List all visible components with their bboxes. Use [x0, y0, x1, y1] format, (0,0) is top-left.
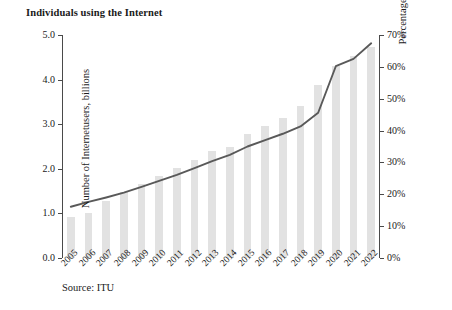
left-tick-label: 5.0	[43, 30, 56, 40]
left-tick-label: 0.0	[43, 253, 56, 263]
right-tick-label: 70%	[387, 30, 405, 40]
left-tick-label: 2.0	[43, 164, 56, 174]
chart-title: Individuals using the Internet	[26, 7, 162, 18]
plot-area: 0.01.02.03.04.05.0 0%10%20%30%40%50%60%7…	[62, 35, 380, 258]
right-tick-label: 20%	[387, 189, 405, 199]
right-axis-title: Percentage of population	[397, 0, 408, 97]
right-tick-label: 30%	[387, 157, 405, 167]
left-tick-label: 3.0	[43, 119, 56, 129]
chart-figure: Individuals using the Internet 0.01.02.0…	[0, 0, 452, 310]
right-tick	[380, 131, 384, 132]
right-tick	[380, 162, 384, 163]
right-tick	[380, 35, 384, 36]
right-tick	[380, 226, 384, 227]
right-tick-label: 40%	[387, 126, 405, 136]
right-tick-label: 50%	[387, 94, 405, 104]
source-note: Source: ITU	[62, 282, 114, 293]
right-tick	[380, 99, 384, 100]
left-axis-title: Number of Internetusers, billions	[80, 24, 91, 254]
right-tick-label: 10%	[387, 221, 405, 231]
right-tick	[380, 258, 384, 259]
x-axis-labels: 2005200620072008200920102011201220132014…	[62, 258, 380, 304]
left-tick-label: 1.0	[43, 208, 56, 218]
left-tick-label: 4.0	[43, 75, 56, 85]
right-tick	[380, 194, 384, 195]
right-tick-label: 0%	[387, 253, 400, 263]
right-tick-label: 60%	[387, 62, 405, 72]
line-series	[62, 35, 380, 258]
right-tick	[380, 67, 384, 68]
